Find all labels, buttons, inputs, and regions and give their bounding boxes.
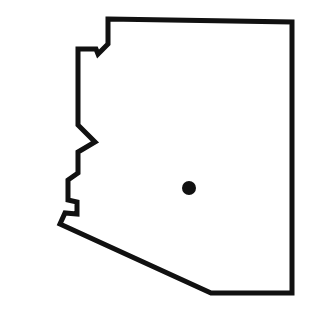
state-outline xyxy=(60,19,292,293)
state-map xyxy=(0,0,318,316)
location-marker-dot xyxy=(182,181,196,195)
